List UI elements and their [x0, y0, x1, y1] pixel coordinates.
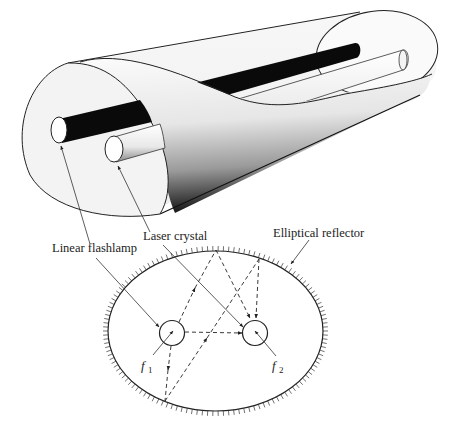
flashlamp-circle — [160, 321, 185, 346]
hatch-tick — [285, 392, 288, 396]
hatch-tick — [114, 365, 118, 368]
hatch-tick — [308, 287, 312, 290]
hatch-tick — [139, 390, 142, 394]
label-laser-crystal: Laser crystal — [143, 229, 208, 243]
hatch-tick — [317, 358, 322, 360]
hatch-tick — [125, 378, 129, 381]
hatch-tick — [166, 255, 168, 260]
hatch-tick — [157, 399, 159, 404]
hatch-tick — [311, 291, 315, 294]
hatch-tick — [239, 409, 240, 414]
hatch-tick — [292, 271, 295, 275]
hatch-tick — [322, 323, 327, 324]
hatch-tick — [104, 339, 109, 340]
elliptical-reflector — [108, 251, 323, 411]
hatch-tick — [317, 302, 322, 304]
hatch-tick — [302, 378, 306, 381]
hatch-tick — [191, 248, 192, 253]
hatch-tick — [234, 247, 235, 252]
hatch-tick — [132, 384, 135, 388]
hatch-tick — [152, 397, 154, 401]
hatch-tick — [191, 409, 192, 414]
hatch-tick — [176, 251, 177, 256]
diagram-canvas: Laser crystal Linear flashlamp Elliptica… — [0, 0, 456, 432]
hatch-tick — [186, 249, 187, 254]
hatch-tick — [105, 314, 110, 315]
hatch-tick — [289, 268, 292, 272]
hatch-tick — [244, 249, 245, 254]
hatch-tick — [108, 306, 113, 308]
hatch-tick — [322, 339, 327, 340]
hatch-tick — [268, 256, 270, 261]
hatch-tick — [263, 255, 265, 260]
hatch-tick — [152, 261, 154, 265]
label-elliptical-reflector: Elliptical reflector — [273, 226, 365, 240]
hatch-tick — [148, 395, 150, 399]
hatch-tick — [108, 354, 113, 356]
label-f2-subscript: 2 — [279, 365, 284, 375]
hatch-tick — [285, 266, 288, 270]
hatch-tick — [148, 263, 150, 267]
hatch-tick — [161, 256, 163, 261]
hatch-tick — [176, 406, 177, 411]
hatch-tick — [106, 350, 111, 352]
hatch-tick — [272, 259, 274, 264]
hatch-tick — [313, 365, 317, 368]
hatch-tick — [292, 387, 295, 391]
hatch-tick — [263, 403, 265, 408]
hatch-tick — [104, 323, 109, 324]
label-f1-subscript: 1 — [148, 365, 153, 375]
hatch-tick — [249, 250, 250, 255]
hatch-tick — [116, 368, 120, 371]
hatch-tick — [258, 253, 260, 258]
hatch-tick — [110, 358, 115, 360]
hatch-tick — [313, 295, 317, 298]
hatch-tick — [320, 310, 325, 312]
hatch-tick — [197, 410, 198, 415]
hatch-tick — [106, 310, 111, 312]
hatch-tick — [319, 306, 324, 308]
hatch-tick — [319, 354, 324, 356]
hatch-tick — [181, 250, 182, 255]
hatch-tick — [114, 295, 118, 298]
hatch-tick — [254, 251, 255, 256]
crystal-rod-end — [105, 136, 123, 162]
crystal-rod-back-end — [399, 50, 407, 70]
hatch-tick — [181, 407, 182, 412]
hatch-tick — [254, 406, 255, 411]
hatch-tick — [302, 280, 306, 283]
hatch-tick — [311, 368, 315, 371]
hatch-tick — [157, 259, 159, 264]
reflector-leader — [291, 240, 309, 264]
hatch-tick — [119, 287, 123, 290]
hatch-tick — [171, 404, 173, 409]
hatch-tick — [281, 263, 283, 267]
hatch-tick — [281, 395, 283, 399]
hatch-tick — [128, 381, 131, 385]
label-linear-flashlamp: Linear flashlamp — [52, 241, 137, 255]
hatch-tick — [289, 390, 292, 394]
hatch-tick — [136, 271, 139, 275]
hatch-tick — [321, 346, 326, 347]
hatch-tick — [112, 361, 116, 363]
cross-section: f 1 f 2 — [96, 240, 328, 416]
hatch-tick — [277, 261, 279, 265]
hatch-tick — [128, 277, 131, 281]
hatch-tick — [305, 284, 309, 287]
hatch-tick — [321, 314, 326, 315]
hatch-tick — [144, 392, 147, 396]
hatch-tick — [315, 361, 319, 363]
hatch-tick — [299, 277, 302, 281]
hatch-tick — [322, 318, 327, 319]
hatch-tick — [315, 298, 319, 300]
hatch-tick — [166, 403, 168, 408]
hatch-tick — [322, 343, 327, 344]
hatch-tick — [268, 401, 270, 406]
hatch-tick — [296, 384, 299, 388]
hatch-tick — [277, 397, 279, 401]
hatch-tick — [244, 408, 245, 413]
hatch-tick — [105, 346, 110, 347]
hatch-tick — [116, 291, 120, 294]
hatch-tick — [139, 268, 142, 272]
hatch-tick — [197, 247, 198, 252]
